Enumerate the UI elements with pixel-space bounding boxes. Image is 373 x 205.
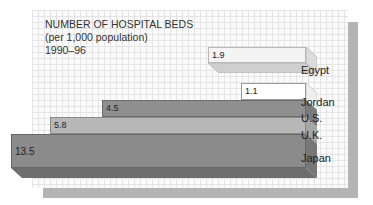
- bar-japan-bottom: [11, 168, 317, 178]
- label-uk: U.K.: [301, 129, 322, 141]
- label-jordan: Jordan: [301, 96, 335, 108]
- bar-jordan: 1.1: [241, 83, 306, 100]
- bar-egypt-value: 1.9: [212, 50, 225, 60]
- bar-japan: 13.5: [11, 134, 306, 168]
- chart-title-block: NUMBER OF HOSPITAL BEDS (per 1,000 popul…: [45, 18, 193, 57]
- bar-uk: 5.8: [50, 117, 306, 134]
- panel-shadow-bottom: [43, 188, 358, 198]
- bar-japan-value: 13.5: [15, 146, 34, 157]
- label-us: U.S.: [301, 112, 322, 124]
- bar-egypt: 1.9: [208, 47, 306, 63]
- chart-title: NUMBER OF HOSPITAL BEDS: [45, 18, 193, 31]
- label-japan: Japan: [301, 152, 331, 164]
- bar-us-value: 4.5: [106, 103, 119, 113]
- chart-subtitle: (per 1,000 population): [45, 31, 193, 44]
- bar-us: 4.5: [102, 100, 306, 117]
- label-egypt: Egypt: [301, 64, 329, 76]
- chart-period: 1990–96: [45, 44, 193, 57]
- bar-uk-value: 5.8: [54, 120, 67, 130]
- bar-jordan-value: 1.1: [245, 86, 258, 96]
- panel-shadow-right: [348, 22, 358, 198]
